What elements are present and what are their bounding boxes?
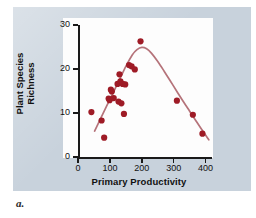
data-point	[121, 111, 127, 117]
figure-caption: a.	[16, 197, 24, 209]
data-points-group	[88, 38, 205, 141]
data-point	[190, 112, 196, 118]
data-point	[101, 135, 107, 141]
data-point	[118, 100, 124, 106]
data-point	[137, 38, 143, 44]
data-point	[122, 81, 128, 87]
data-point	[88, 109, 94, 115]
data-point	[174, 98, 180, 104]
scatter-plot-svg	[0, 0, 256, 218]
data-point	[109, 88, 115, 94]
data-point	[116, 71, 122, 77]
data-point	[199, 131, 205, 137]
data-point	[132, 66, 138, 72]
data-point	[99, 117, 105, 123]
figure-root: 01020300100200300400 Plant Species Richn…	[0, 0, 256, 218]
